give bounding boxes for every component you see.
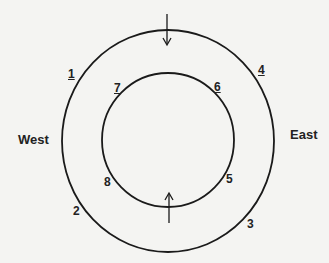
outer-circle (62, 30, 274, 252)
label-4: 4 (258, 64, 265, 76)
label-2: 2 (73, 205, 80, 217)
label-1: 1 (68, 68, 75, 80)
ring-graphic (0, 0, 329, 263)
label-7: 7 (114, 82, 121, 94)
east-label: East (290, 128, 317, 141)
west-label: West (18, 133, 49, 146)
arrow-up-icon (165, 193, 173, 223)
label-6: 6 (214, 81, 221, 93)
label-8: 8 (104, 176, 111, 188)
label-3: 3 (247, 218, 254, 230)
ring-diagram: West East 1 2 3 4 5 6 7 8 (0, 0, 329, 263)
label-5: 5 (226, 173, 233, 185)
